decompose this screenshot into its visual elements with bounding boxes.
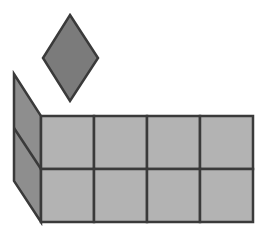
grid-face bbox=[41, 116, 94, 169]
diamond-shape bbox=[43, 15, 98, 101]
grid-face bbox=[94, 169, 147, 222]
grid-face bbox=[147, 116, 200, 169]
grid-face bbox=[200, 169, 253, 222]
grid-face bbox=[147, 169, 200, 222]
grid-face bbox=[200, 116, 253, 169]
box-net-figure bbox=[0, 0, 264, 236]
grid-face bbox=[41, 169, 94, 222]
face-grid bbox=[41, 116, 253, 222]
grid-face bbox=[94, 116, 147, 169]
